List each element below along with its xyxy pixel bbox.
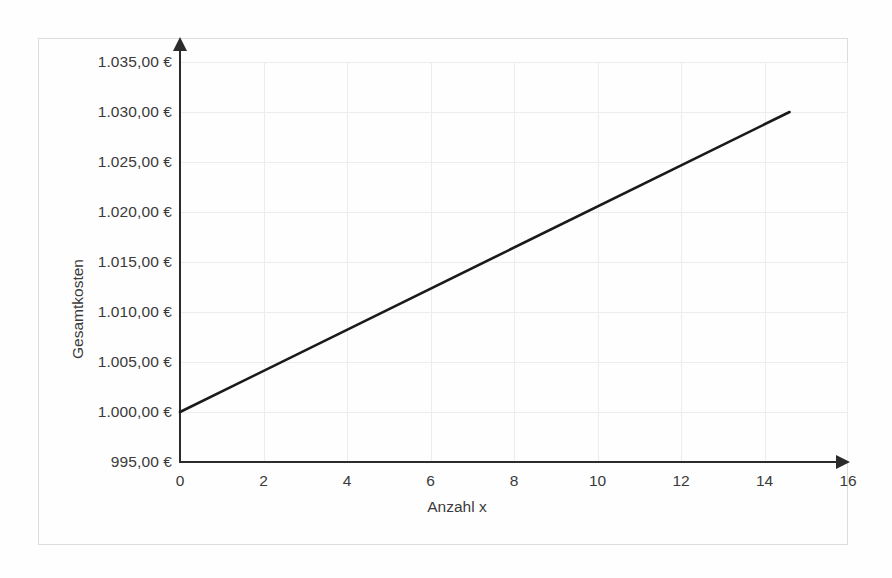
x-tick-label: 2 [259,472,268,490]
y-axis-line [179,48,181,463]
y-tick-label: 1.025,00 € [98,153,172,171]
x-axis-title: Anzahl x [0,498,892,516]
y-axis-title: Gesamtkosten [69,219,87,399]
y-axis-arrow-icon [173,37,187,51]
gridline-vertical [681,62,682,462]
gridline-vertical [847,62,848,462]
x-tick-label: 16 [839,472,856,490]
gridline-vertical [347,62,348,462]
gridline-vertical [264,62,265,462]
x-tick-label: 12 [672,472,689,490]
y-tick-label: 1.035,00 € [98,53,172,71]
plot-area [180,62,848,462]
y-tick-label: 1.000,00 € [98,403,172,421]
gridline-vertical [598,62,599,462]
x-tick-label: 8 [510,472,519,490]
y-tick-label: 1.015,00 € [98,253,172,271]
x-tick-label: 14 [756,472,773,490]
y-tick-label: 1.010,00 € [98,303,172,321]
x-tick-label: 4 [343,472,352,490]
y-tick-label: 1.020,00 € [98,203,172,221]
y-tick-label: 995,00 € [111,453,172,471]
figure-root: 1.035,00 € 1.030,00 € 1.025,00 € 1.020,0… [0,0,892,578]
x-axis-line [179,461,839,463]
x-axis-arrow-icon [836,455,850,469]
x-tick-label: 6 [426,472,435,490]
x-tick-label: 0 [176,472,185,490]
gridline-vertical [514,62,515,462]
y-tick-label: 1.005,00 € [98,353,172,371]
gridline-vertical [765,62,766,462]
y-tick-label: 1.030,00 € [98,103,172,121]
gridline-vertical [431,62,432,462]
x-tick-label: 10 [589,472,606,490]
